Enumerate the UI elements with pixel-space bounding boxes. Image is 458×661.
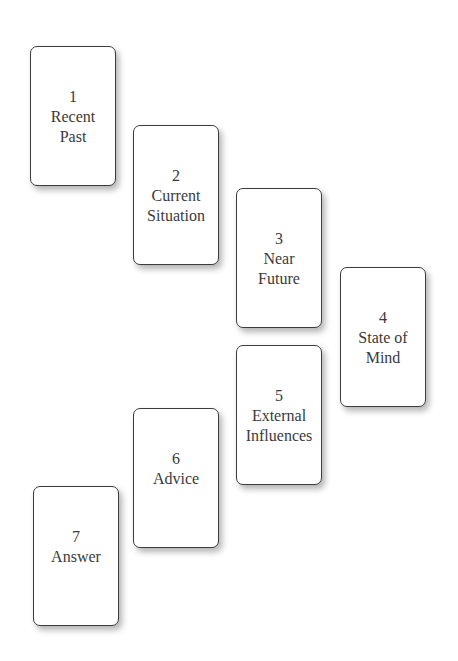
card-number: 7 bbox=[34, 527, 118, 547]
card-answer: 7 Answer bbox=[33, 486, 119, 626]
card-label: Answer bbox=[34, 547, 118, 567]
card-label: Advice bbox=[134, 469, 218, 489]
card-number: 1 bbox=[31, 87, 115, 107]
card-advice: 6 Advice bbox=[133, 408, 219, 548]
card-number: 2 bbox=[134, 166, 218, 186]
card-number: 6 bbox=[134, 449, 218, 469]
card-number: 5 bbox=[237, 386, 321, 406]
card-state-of-mind: 4 State of Mind bbox=[340, 267, 426, 407]
card-label: Recent Past bbox=[31, 107, 115, 147]
card-recent-past: 1 Recent Past bbox=[30, 46, 116, 186]
card-label: Near Future bbox=[237, 249, 321, 289]
card-label: State of Mind bbox=[341, 328, 425, 368]
card-number: 3 bbox=[237, 229, 321, 249]
card-current-situation: 2 Current Situation bbox=[133, 125, 219, 265]
card-external-influences: 5 External Influences bbox=[236, 345, 322, 485]
card-label: External Influences bbox=[237, 406, 321, 446]
card-near-future: 3 Near Future bbox=[236, 188, 322, 328]
card-label: Current Situation bbox=[134, 186, 218, 226]
card-number: 4 bbox=[341, 308, 425, 328]
